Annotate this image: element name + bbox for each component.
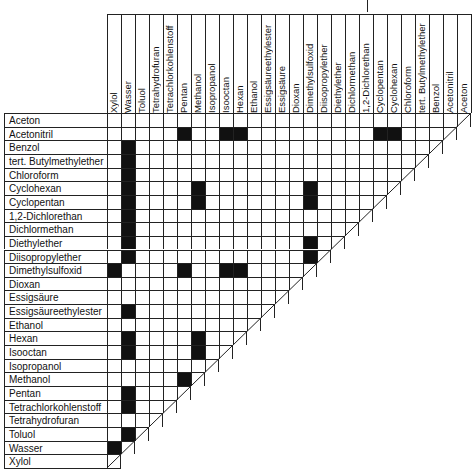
miscibility-chart: XylolWasserToluolTetrahydrofuranTetrachl… [0,0,475,473]
header-tick [367,0,368,12]
diagonal-line [0,0,475,473]
